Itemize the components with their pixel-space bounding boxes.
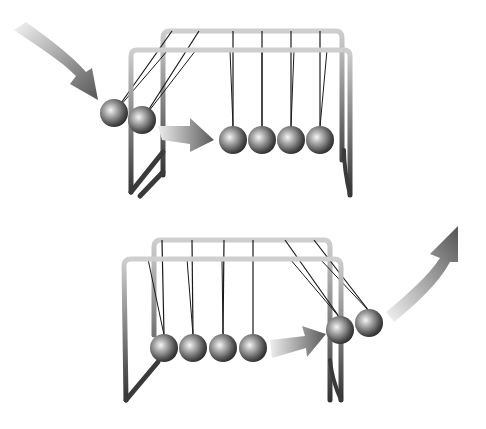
ball-resting — [239, 334, 267, 362]
diagram-canvas — [0, 0, 486, 429]
newtons-cradle-diagram — [0, 0, 486, 429]
outgoing-curved-arrow-icon — [386, 226, 458, 322]
ball-swinging — [100, 99, 128, 127]
transfer-arrow-icon — [158, 118, 214, 152]
ball-swinging — [326, 316, 354, 344]
ball-resting — [219, 126, 247, 154]
ball-resting — [277, 126, 305, 154]
panel-before-collision — [14, 22, 350, 196]
ball-resting — [179, 334, 207, 362]
string — [142, 31, 199, 120]
ball-swinging — [128, 106, 156, 134]
ball-resting — [248, 126, 276, 154]
string — [162, 240, 164, 335]
front-frame-base — [126, 362, 158, 400]
ball-swinging — [355, 309, 383, 337]
string — [320, 50, 327, 127]
ball-resting — [150, 334, 178, 362]
string — [222, 259, 223, 335]
panel-after-collision — [124, 226, 458, 400]
ball-resting — [306, 126, 334, 154]
ball-resting — [209, 334, 237, 362]
back-frame — [163, 31, 342, 175]
back-frame — [154, 240, 330, 400]
transfer-arrow-icon — [270, 326, 326, 358]
incoming-curved-arrow-icon — [14, 22, 98, 100]
